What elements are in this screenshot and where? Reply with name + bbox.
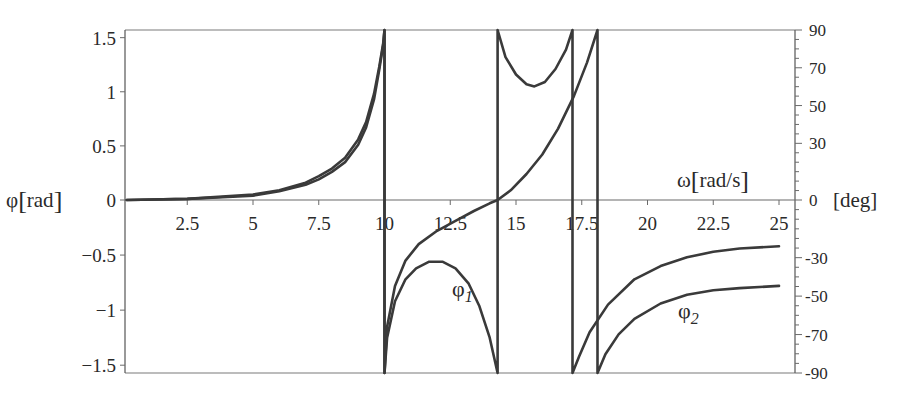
x-tick-label: 17.5 — [565, 213, 598, 234]
x-tick-label: 7.5 — [307, 213, 331, 234]
x-axis-label-unit: rad/s — [700, 168, 741, 192]
y2-tick-label: 90 — [809, 21, 826, 40]
curve-label-phi1-sub: 1 — [465, 288, 473, 305]
x-tick-label: 15 — [507, 213, 526, 234]
y-tick-label: 1 — [107, 82, 117, 103]
x-tick-label: 5 — [248, 213, 258, 234]
curve-label-phi1: φ1 — [452, 276, 473, 305]
y-axis-label-unit: rad — [27, 188, 54, 212]
curve-label-phi1-main: φ — [452, 276, 465, 301]
y2-axis-label: [deg] — [833, 188, 877, 212]
y2-tick-label: 0 — [809, 191, 818, 210]
x-tick-label: 22.5 — [697, 213, 730, 234]
y-tick-label: −0.5 — [82, 245, 116, 266]
y2-tick-label: -90 — [805, 364, 828, 383]
x-tick-label: 25 — [770, 213, 789, 234]
curve-label-phi2-main: φ — [678, 298, 691, 323]
y-axis-label: φ[rad] — [6, 186, 62, 215]
curve-label-phi2: φ2 — [678, 298, 699, 327]
y-axis-right: 907050300-30-50-70-90 — [795, 21, 828, 383]
y2-tick-label: 30 — [809, 134, 826, 153]
y-tick-label: 1.5 — [92, 28, 116, 49]
x-axis: 2.557.51012.51517.52022.525 — [175, 200, 788, 234]
y2-tick-label: -70 — [805, 326, 828, 345]
phase-chart: 2.557.51012.51517.52022.525 1.510.50−0.5… — [0, 0, 917, 398]
y-tick-label: 0.5 — [92, 136, 116, 157]
y-tick-label: −1 — [96, 300, 116, 321]
y-axis-label-symbol: φ — [6, 188, 18, 212]
y-axis-left: 1.510.50−0.5−1−1.5 — [82, 28, 125, 377]
y-tick-label: −1.5 — [82, 355, 116, 376]
x-tick-label: 20 — [638, 213, 657, 234]
curve-label-phi2-sub: 2 — [691, 310, 699, 327]
x-axis-label: ω[rad/s] — [677, 166, 749, 195]
y2-tick-label: -30 — [805, 249, 828, 268]
y2-tick-label: 50 — [809, 97, 826, 116]
x-axis-label-symbol: ω — [677, 168, 691, 192]
y2-tick-label: -50 — [805, 287, 828, 306]
y-tick-label: 0 — [107, 190, 117, 211]
y2-tick-label: 70 — [809, 59, 826, 78]
x-tick-label: 2.5 — [175, 213, 199, 234]
